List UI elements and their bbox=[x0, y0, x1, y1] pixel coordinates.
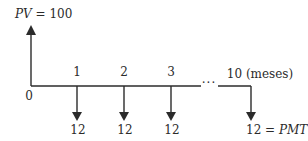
payment-arrow-down-icon bbox=[119, 86, 129, 121]
payment-label: 12 bbox=[117, 123, 132, 137]
payment-arrow-down-icon bbox=[72, 86, 82, 121]
ellipsis: ··· bbox=[202, 76, 216, 90]
present-value-label: PV = 100 bbox=[15, 7, 72, 21]
pv-symbol: PV bbox=[15, 7, 32, 21]
pmt-equals: = bbox=[265, 123, 275, 137]
period-zero-label: 0 bbox=[25, 89, 33, 103]
pmt-symbol: PMT bbox=[279, 123, 307, 137]
pv-value: 100 bbox=[49, 7, 72, 21]
period-label: 2 bbox=[120, 65, 128, 79]
pmt-label: 12 = PMT bbox=[246, 123, 307, 137]
pv-equals: = bbox=[36, 7, 46, 21]
pmt-value: 12 bbox=[246, 123, 261, 137]
payment-label: 12 bbox=[70, 123, 85, 137]
payment-arrow-down-icon bbox=[166, 86, 176, 121]
pv-arrow-up-icon bbox=[26, 25, 36, 86]
period-label: 1 bbox=[73, 65, 81, 79]
payment-arrow-down-icon bbox=[246, 86, 256, 121]
payment-label: 12 bbox=[164, 123, 179, 137]
period-label: 3 bbox=[167, 65, 175, 79]
last-period-label: 10 (meses) bbox=[227, 67, 293, 81]
